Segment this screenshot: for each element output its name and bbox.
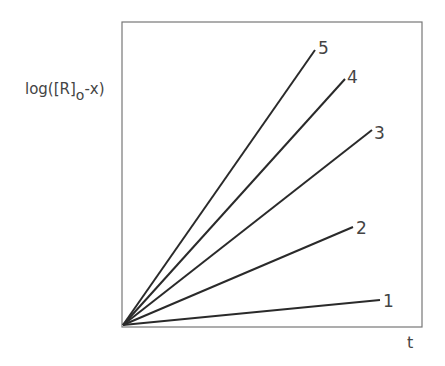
series-lines — [123, 50, 380, 325]
series-label-2: 2 — [356, 218, 367, 238]
x-axis-label: t — [407, 333, 413, 352]
series-label-4: 4 — [347, 67, 358, 87]
series-label-1: 1 — [383, 291, 394, 311]
chart: 1 2 3 4 5 log([R]o-x) t — [0, 0, 445, 366]
series-line-1 — [123, 300, 380, 325]
series-label-3: 3 — [374, 123, 385, 143]
plot-frame — [122, 22, 422, 327]
y-axis-label: log([R]o-x) — [25, 80, 105, 103]
series-line-4 — [123, 79, 345, 325]
series-line-3 — [123, 130, 372, 325]
series-label-5: 5 — [318, 38, 329, 58]
